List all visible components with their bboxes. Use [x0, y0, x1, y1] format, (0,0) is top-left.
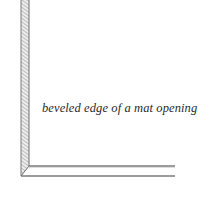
diagram-caption: beveled edge of a mat opening — [42, 101, 197, 116]
mat-bevel-diagram: beveled edge of a mat opening — [0, 0, 199, 218]
bevel-strip — [21, 0, 29, 176]
bottom-bevel-lines — [21, 166, 175, 176]
